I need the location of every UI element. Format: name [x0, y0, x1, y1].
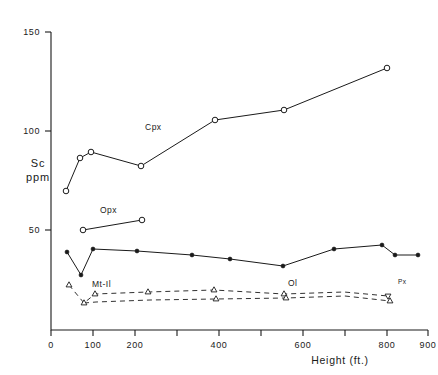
series-cpx-markers [63, 65, 390, 194]
series-label-px: Px [398, 278, 407, 285]
data-point [77, 155, 83, 161]
data-point [145, 289, 151, 294]
data-point [281, 107, 287, 113]
series-whole-rock-markers [65, 243, 420, 277]
x-axis-tick-labels: 0 100 200 400 600 800 900 [48, 340, 436, 350]
x-axis-title: Height (ft.) [311, 354, 368, 366]
data-point [91, 247, 95, 251]
data-point [332, 247, 336, 251]
series-ol [81, 295, 393, 305]
x-tick-label-0: 0 [48, 340, 54, 350]
series-opx-line [83, 220, 142, 230]
series-whole-rock [65, 243, 420, 277]
data-point [416, 253, 420, 257]
series-whole-rock-line [67, 245, 418, 275]
y-axis-tick-labels: 150 100 50 [23, 27, 40, 235]
y-axis-title-line2: ppm [26, 171, 50, 183]
data-point [380, 243, 384, 247]
y-tick-label-50: 50 [29, 225, 40, 235]
series-label-mt-il: Mt-Il [92, 279, 111, 289]
x-tick-label-400: 400 [211, 340, 228, 350]
y-axis-title-line1: Sc [31, 157, 45, 169]
x-tick-label-100: 100 [85, 340, 102, 350]
data-point [213, 296, 219, 301]
data-point [63, 188, 69, 194]
series-mt-il-line [69, 285, 388, 303]
series-label-cpx: Cpx [145, 122, 162, 132]
series-cpx-line [66, 68, 387, 191]
series-mt-il [66, 282, 391, 303]
y-tick-label-100: 100 [23, 126, 40, 136]
data-point [211, 287, 217, 292]
data-point [190, 253, 194, 257]
figure-container: 150 100 50 Sc ppm 0 100 200 400 60 [0, 0, 438, 375]
x-tick-label-200: 200 [127, 340, 144, 350]
x-axis-ticks [51, 330, 428, 336]
data-point [135, 249, 139, 253]
series-label-ol: Ol [288, 278, 298, 288]
y-tick-label-150: 150 [23, 27, 40, 37]
series-label-opx: Opx [100, 205, 117, 215]
data-point [92, 291, 98, 296]
data-point [79, 273, 83, 277]
data-point [281, 264, 285, 268]
data-point [212, 117, 218, 123]
y-axis-ticks [45, 32, 51, 230]
data-point [66, 282, 72, 287]
series-opx [80, 217, 145, 233]
x-tick-label-900: 900 [420, 340, 437, 350]
series-ol-line [84, 296, 390, 303]
y-axis-title: Sc ppm [26, 157, 50, 183]
scatter-line-chart: 150 100 50 Sc ppm 0 100 200 400 60 [0, 0, 438, 375]
x-tick-label-600: 600 [295, 340, 312, 350]
data-point [138, 163, 144, 169]
x-tick-label-800: 800 [379, 340, 396, 350]
data-point [228, 257, 232, 261]
data-point [139, 217, 145, 223]
data-point [65, 250, 69, 254]
data-point [393, 253, 397, 257]
data-point [80, 227, 86, 233]
series-cpx [63, 65, 390, 194]
data-point [88, 149, 94, 155]
series-annotations: Cpx Opx Mt-Il Ol Px [92, 122, 407, 289]
data-point [384, 65, 390, 71]
